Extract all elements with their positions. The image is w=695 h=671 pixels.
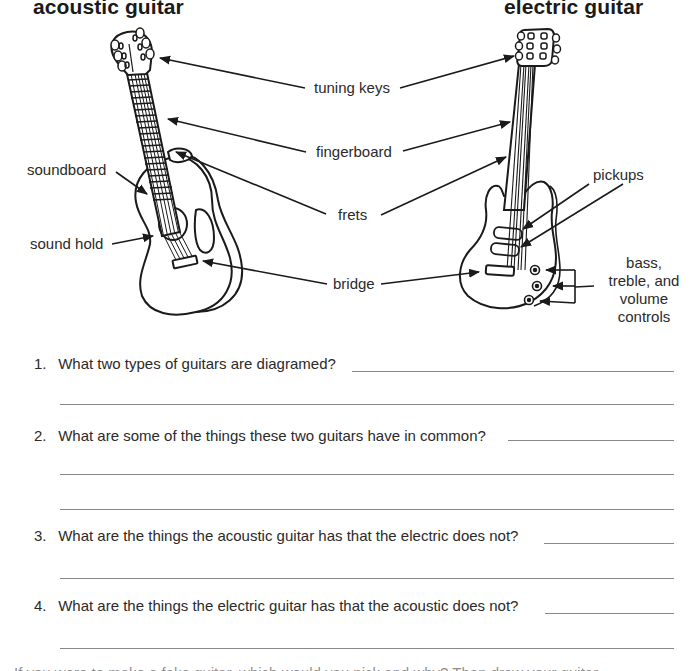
label-sound-hold: sound hold xyxy=(30,235,103,252)
answer-line-1a[interactable] xyxy=(352,371,674,372)
label-controls: bass, treble, and volume controls xyxy=(594,254,694,326)
label-controls-line-2: treble, and xyxy=(594,272,694,290)
question-3-text: What are the things the acoustic guitar … xyxy=(58,527,518,544)
question-1-text: What two types of guitars are diagramed? xyxy=(58,355,336,372)
question-2-text: What are some of the things these two gu… xyxy=(58,427,486,444)
label-controls-line-4: controls xyxy=(594,308,694,326)
answer-line-3b[interactable] xyxy=(60,578,674,579)
label-soundboard: soundboard xyxy=(27,161,106,178)
question-4-number: 4. xyxy=(34,597,54,614)
question-3: 3. What are the things the acoustic guit… xyxy=(34,527,518,544)
question-2: 2. What are some of the things these two… xyxy=(34,427,486,444)
label-tuning-keys: tuning keys xyxy=(314,79,390,96)
label-controls-line-1: bass, xyxy=(594,254,694,272)
label-frets: frets xyxy=(338,206,367,223)
answer-line-2c[interactable] xyxy=(60,509,674,510)
question-4: 4. What are the things the electric guit… xyxy=(34,597,518,614)
footer-cut-text: If you were to make a fake guitar, which… xyxy=(14,664,602,671)
label-bridge: bridge xyxy=(333,275,375,292)
question-3-number: 3. xyxy=(34,527,54,544)
question-1-number: 1. xyxy=(34,355,54,372)
answer-line-2b[interactable] xyxy=(60,474,674,475)
question-4-text: What are the things the electric guitar … xyxy=(58,597,518,614)
answer-line-4b[interactable] xyxy=(60,648,674,649)
question-1: 1. What two types of guitars are diagram… xyxy=(34,355,336,372)
answer-line-2a[interactable] xyxy=(508,440,674,441)
electric-guitar-drawing xyxy=(460,29,561,308)
answer-line-4a[interactable] xyxy=(545,613,674,614)
label-pickups: pickups xyxy=(593,166,644,183)
answer-line-1b[interactable] xyxy=(60,404,674,405)
label-fingerboard: fingerboard xyxy=(316,143,392,160)
electric-bridge xyxy=(486,265,515,276)
question-2-number: 2. xyxy=(34,427,54,444)
answer-line-3a[interactable] xyxy=(544,543,674,544)
label-controls-line-3: volume xyxy=(594,290,694,308)
